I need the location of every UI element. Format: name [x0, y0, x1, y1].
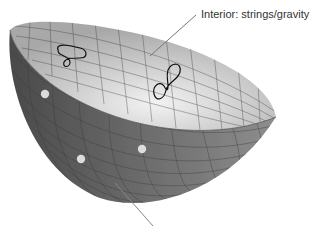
interior-label: Interior: strings/gravity — [201, 8, 309, 20]
boundary-point — [41, 90, 49, 98]
bowl-diagram — [0, 0, 325, 233]
boundary-point — [77, 155, 85, 163]
boundary-point — [138, 145, 146, 153]
